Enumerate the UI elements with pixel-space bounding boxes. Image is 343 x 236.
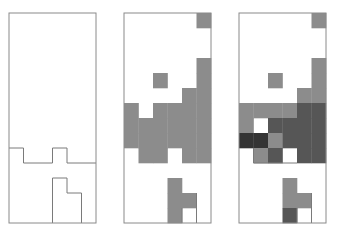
- grid-cell: [182, 133, 197, 148]
- panel-multi-level: [239, 13, 326, 223]
- grid-cell: [254, 103, 269, 118]
- grid-cell: [168, 103, 183, 118]
- grid-cell: [182, 88, 197, 103]
- grid-cell: [283, 178, 298, 193]
- grid-cell: [197, 88, 212, 103]
- grid-cell: [182, 148, 197, 163]
- grid-cell: [297, 193, 312, 208]
- grid-cell: [168, 133, 183, 148]
- grid-cell: [254, 148, 269, 163]
- grid-cell: [297, 133, 312, 148]
- grid-cell: [312, 13, 327, 28]
- grid-cell: [153, 103, 168, 118]
- grid-cell: [197, 13, 212, 28]
- grid-cell: [283, 193, 298, 208]
- grid-cell: [197, 103, 212, 118]
- panel-two-level: [124, 13, 211, 223]
- grid-cell: [168, 193, 183, 208]
- grid-cell: [268, 103, 283, 118]
- grid-cell: [268, 133, 283, 148]
- grid-cell: [297, 88, 312, 103]
- panel-outline: [9, 13, 96, 223]
- grid-cell: [268, 73, 283, 88]
- grid-cell: [124, 133, 139, 148]
- grid-panels-figure: [0, 0, 343, 236]
- grid-cell: [168, 118, 183, 133]
- grid-cell: [254, 133, 269, 148]
- grid-cell: [168, 178, 183, 193]
- grid-cell: [283, 208, 298, 223]
- grid-cell: [283, 133, 298, 148]
- grid-cell: [283, 118, 298, 133]
- grid-cell: [312, 58, 327, 73]
- grid-cell: [239, 103, 254, 118]
- grid-cell: [239, 133, 254, 148]
- grid-cell: [139, 148, 154, 163]
- grid-cell: [153, 133, 168, 148]
- grid-cell: [268, 148, 283, 163]
- grid-cell: [197, 148, 212, 163]
- grid-cell: [182, 193, 197, 208]
- grid-cell: [312, 118, 327, 133]
- grid-cell: [312, 133, 327, 148]
- grid-cell: [239, 118, 254, 133]
- grid-cell: [197, 133, 212, 148]
- figure-stage: [0, 0, 343, 236]
- grid-cell: [197, 73, 212, 88]
- grid-cell: [297, 118, 312, 133]
- grid-cell: [168, 208, 183, 223]
- grid-cell: [182, 103, 197, 118]
- grid-cell: [297, 103, 312, 118]
- grid-cell: [312, 103, 327, 118]
- grid-cell: [153, 118, 168, 133]
- grid-cell: [124, 118, 139, 133]
- grid-cell: [139, 133, 154, 148]
- grid-cell: [139, 118, 154, 133]
- grid-cell: [182, 118, 197, 133]
- grid-cell: [197, 118, 212, 133]
- grid-cell: [268, 118, 283, 133]
- grid-cell: [312, 148, 327, 163]
- grid-cell: [312, 88, 327, 103]
- grid-cell: [124, 103, 139, 118]
- grid-cell: [312, 73, 327, 88]
- grid-cell: [197, 58, 212, 73]
- grid-cell: [297, 148, 312, 163]
- grid-cell: [153, 148, 168, 163]
- grid-cell: [153, 73, 168, 88]
- grid-cell: [283, 103, 298, 118]
